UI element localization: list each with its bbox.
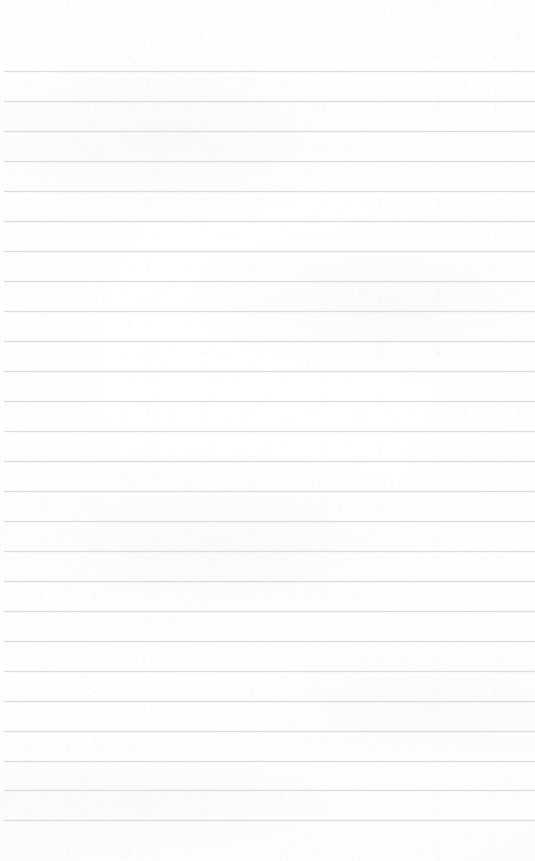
notepad-page	[0, 0, 535, 861]
writing-area[interactable]	[0, 0, 535, 861]
